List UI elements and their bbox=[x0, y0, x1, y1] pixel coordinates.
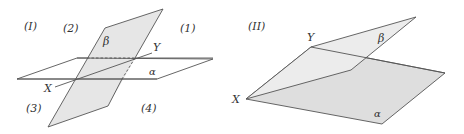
plane-beta-label-I: β bbox=[102, 35, 109, 48]
figure-I-label: (I) bbox=[24, 20, 37, 33]
point-X-label-II: X bbox=[231, 93, 241, 106]
figure-II-label: (II) bbox=[248, 20, 265, 33]
point-X-label-I: X bbox=[43, 82, 53, 95]
plane-alpha-label-I: α bbox=[149, 66, 156, 77]
figure-I: (I) (2) (1) β Y α X (3) (4) bbox=[17, 9, 213, 127]
diagram-canvas: (I) (2) (1) β Y α X (3) (4) (II) bbox=[0, 0, 464, 134]
figure-II: (II) Y β X α bbox=[231, 17, 445, 124]
region-3-label: (3) bbox=[26, 102, 42, 115]
region-4-label: (4) bbox=[141, 102, 157, 115]
region-2-label: (2) bbox=[63, 22, 79, 35]
point-Y-label-II: Y bbox=[307, 31, 316, 44]
point-Y-label-I: Y bbox=[153, 41, 162, 54]
plane-alpha-label-II: α bbox=[374, 108, 381, 119]
plane-beta-label-II: β bbox=[377, 32, 384, 45]
region-1-label: (1) bbox=[180, 22, 196, 35]
